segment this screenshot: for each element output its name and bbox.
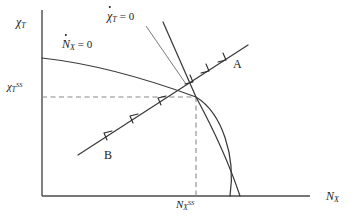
n-nullcline-subscript: X [70, 43, 75, 52]
phase-diagram-canvas [0, 0, 356, 224]
n-nullcline-curve [42, 58, 231, 196]
saddle-arrow-a-2 [218, 53, 226, 62]
x-steady-state-tick-label: NXSS [176, 199, 194, 210]
x-steady-state-superscript: SS [188, 199, 195, 206]
n-nullcline-symbol: N [62, 38, 70, 50]
dot-accent-icon [65, 34, 67, 36]
phase-diagram-figure: χT NX χTSS NXSS N X = 0 χ T = 0 A B [0, 0, 356, 224]
y-axis-subscript: T [21, 21, 25, 30]
chi-nullcline-equation: = 0 [120, 10, 134, 22]
saddle-branch-a-label: A [233, 58, 242, 70]
dot-accent-icon [108, 6, 110, 8]
n-nullcline-equation: = 0 [78, 38, 92, 50]
chi-nullcline-curve [163, 22, 240, 196]
saddle-arrow-a-3 [185, 75, 193, 84]
x-axis-symbol: N [326, 190, 334, 202]
chi-nullcline-subscript: T [112, 15, 116, 24]
n-nullcline-label: N X = 0 [62, 38, 92, 50]
saddle-path-line [78, 45, 248, 155]
x-axis-subscript: X [334, 195, 339, 204]
y-steady-state-superscript: SS [16, 81, 23, 88]
saddle-arrow-a-1 [201, 64, 209, 73]
y-steady-state-tick-label: χTSS [7, 81, 22, 92]
x-axis-label: NX [326, 190, 339, 202]
saddle-branch-b-label: B [104, 149, 112, 161]
chi-nullcline-label: χ T = 0 [107, 10, 134, 22]
chi-nullcline-leader-line [146, 26, 186, 84]
y-axis-label: χT [16, 16, 26, 28]
